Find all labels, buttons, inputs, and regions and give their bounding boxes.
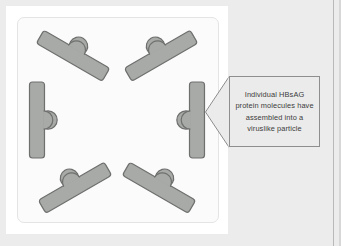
callout-box: Individual HBsAG protein molecules have …	[229, 76, 320, 147]
viruslike-particle-diagram	[6, 6, 228, 234]
callout-pointer-triangle	[206, 76, 230, 148]
right-edge-rule	[333, 0, 334, 246]
subunit-top-right	[118, 19, 198, 81]
subunit-right	[177, 82, 205, 158]
subunit-group	[30, 19, 205, 213]
subunit-top-left	[36, 19, 116, 81]
subunit-left	[30, 82, 58, 158]
figure-root: Individual HBsAG protein molecules have …	[0, 0, 341, 246]
callout-text: Individual HBsAG protein molecules have …	[230, 89, 319, 134]
subunit-bottom-left	[32, 151, 112, 213]
subunit-bottom-right	[122, 151, 202, 213]
